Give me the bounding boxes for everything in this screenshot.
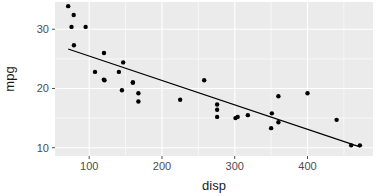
y-tick-label: 10 (37, 142, 49, 154)
data-point (215, 115, 219, 119)
data-point (93, 70, 97, 74)
y-axis-title: mpg (2, 66, 17, 91)
x-tick-label: 100 (80, 160, 98, 172)
data-point (334, 118, 338, 122)
data-point (136, 99, 140, 103)
chart-canvas: 100200300400 102030 disp mpg (0, 0, 376, 196)
data-point (117, 70, 121, 74)
x-tick-label: 300 (226, 160, 244, 172)
data-point (276, 94, 280, 98)
data-point (305, 91, 309, 95)
x-tick-label: 200 (153, 160, 171, 172)
data-point (178, 98, 182, 102)
data-point (121, 60, 125, 64)
data-point (72, 13, 76, 17)
x-axis-tick-labels: 100200300400 (80, 160, 317, 172)
data-point (66, 4, 70, 8)
data-point (131, 80, 135, 84)
y-axis-tick-labels: 102030 (37, 23, 49, 153)
x-tick-label: 400 (298, 160, 316, 172)
scatter-plot-figure: 100200300400 102030 disp mpg (0, 0, 376, 196)
data-point (215, 102, 219, 106)
data-point (233, 116, 237, 120)
data-point (215, 108, 219, 112)
data-point (276, 120, 280, 124)
data-point (202, 78, 206, 82)
data-point (102, 78, 106, 82)
data-point (69, 25, 73, 29)
data-point (83, 25, 87, 29)
y-tick-label: 30 (37, 23, 49, 35)
data-point (102, 51, 106, 55)
data-point (269, 126, 273, 130)
y-tick-label: 20 (37, 82, 49, 94)
data-point (270, 111, 274, 115)
data-point (246, 113, 250, 117)
x-axis-title: disp (202, 178, 226, 193)
data-point (120, 88, 124, 92)
data-point (72, 43, 76, 47)
data-point (136, 91, 140, 95)
